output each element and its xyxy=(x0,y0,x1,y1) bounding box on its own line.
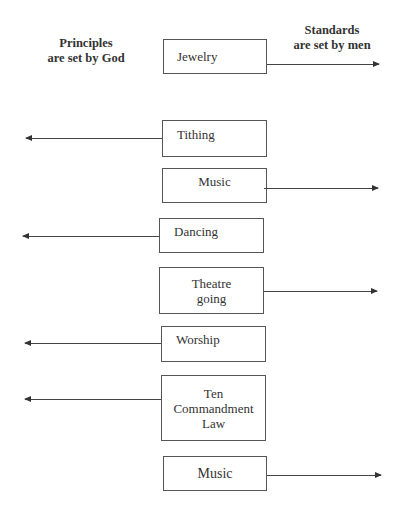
arrow-left-icon xyxy=(25,399,161,400)
item-label: Worship xyxy=(176,332,220,347)
item-label: Music xyxy=(198,466,233,481)
principles-header-line2: are set by God xyxy=(36,51,136,66)
item-box-music: Music xyxy=(162,168,267,203)
standards-header-line1: Standards xyxy=(282,23,382,38)
item-box-jewelry: Jewelry xyxy=(163,39,267,74)
item-box-tithing: Tithing xyxy=(162,120,267,157)
standards-header: Standards are set by men xyxy=(282,23,382,53)
item-label: Music xyxy=(198,174,231,189)
arrow-left-icon xyxy=(25,343,161,344)
item-box-worship: Worship xyxy=(161,326,266,362)
item-label: Tithing xyxy=(177,127,215,142)
arrow-right-icon xyxy=(267,64,379,65)
arrow-left-icon xyxy=(26,138,162,139)
principles-header: Principles are set by God xyxy=(36,36,136,66)
arrow-left-icon xyxy=(23,236,159,237)
item-box-music-2: Music xyxy=(163,456,267,491)
item-box-dancing: Dancing xyxy=(159,218,264,253)
item-label-line2: Commandment xyxy=(173,401,253,416)
item-label-line2: going xyxy=(197,291,227,306)
item-box-ten-commandment-law: Ten Commandment Law xyxy=(161,375,266,441)
item-label-line1: Ten xyxy=(204,386,223,401)
arrow-right-icon xyxy=(264,188,378,189)
item-label-line1: Theatre xyxy=(192,276,232,291)
item-label: Dancing xyxy=(174,224,218,239)
arrow-right-icon xyxy=(267,475,381,476)
standards-header-line2: are set by men xyxy=(282,38,382,53)
arrow-right-icon xyxy=(264,291,377,292)
principles-header-line1: Principles xyxy=(36,36,136,51)
item-box-theatre-going: Theatre going xyxy=(159,267,264,314)
item-label: Jewelry xyxy=(177,49,217,64)
item-label-line3: Law xyxy=(202,416,225,431)
